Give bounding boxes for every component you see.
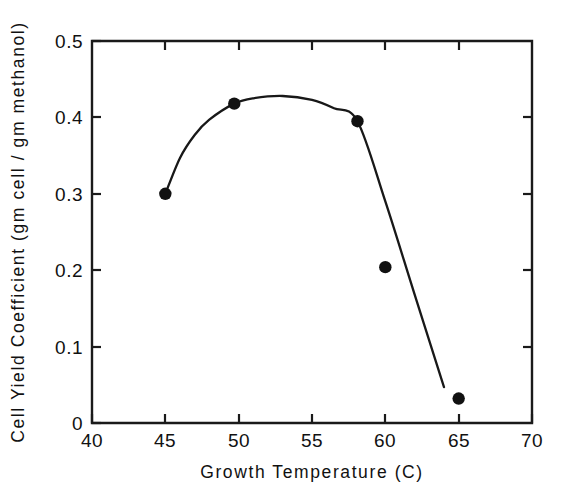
x-tick-label-1: 45 xyxy=(154,430,176,451)
y-axis-ticks xyxy=(92,41,101,423)
x-tick-label-3: 55 xyxy=(301,430,323,451)
y-tick-label-1: 0.1 xyxy=(55,337,83,358)
x-axis-top-ticks xyxy=(165,41,459,50)
data-point xyxy=(379,261,391,273)
x-tick-label-2: 50 xyxy=(228,430,250,451)
x-tick-labels: 40 45 50 55 60 65 70 xyxy=(81,430,543,451)
x-tick-label-0: 40 xyxy=(81,430,103,451)
y-tick-label-5: 0.5 xyxy=(55,31,83,52)
x-axis-title: Growth Temperature (C) xyxy=(200,462,424,482)
data-point xyxy=(351,115,363,127)
y-tick-label-0: 0 xyxy=(72,413,83,434)
x-tick-label-5: 65 xyxy=(448,430,470,451)
chart-figure: 40 45 50 55 60 65 70 0 0.1 0.2 0.3 0.4 0… xyxy=(0,0,572,498)
y-tick-label-3: 0.3 xyxy=(55,184,83,205)
axes-frame xyxy=(92,41,532,423)
y-tick-label-4: 0.4 xyxy=(55,107,83,128)
series-line xyxy=(165,96,444,387)
data-point xyxy=(228,97,240,109)
series-markers xyxy=(159,97,465,404)
plot-border xyxy=(92,41,532,423)
y-tick-label-2: 0.2 xyxy=(55,260,83,281)
y-tick-labels: 0 0.1 0.2 0.3 0.4 0.5 xyxy=(55,31,83,434)
x-tick-label-6: 70 xyxy=(521,430,543,451)
chart-plot-area: 40 45 50 55 60 65 70 0 0.1 0.2 0.3 0.4 0… xyxy=(0,0,572,498)
x-axis-ticks xyxy=(92,414,532,423)
data-point xyxy=(452,392,464,404)
data-point xyxy=(159,188,171,200)
data-series-cell-yield xyxy=(159,96,465,405)
y-axis-title: Cell Yield Coefficient (gm cell / gm met… xyxy=(8,21,28,442)
x-tick-label-4: 60 xyxy=(374,430,396,451)
y-axis-right-ticks xyxy=(523,117,532,347)
